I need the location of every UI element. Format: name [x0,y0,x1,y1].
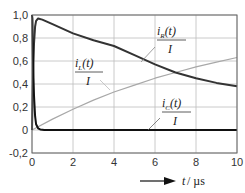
series-line-l [32,58,237,131]
label-iR: iR(t) I [141,24,186,62]
svg-text:iC(t): iC(t) [162,96,181,112]
x-tick-label: 0 [29,156,35,168]
svg-text:iR(t): iR(t) [157,24,176,40]
y-tick-label: 0,8 [13,32,28,44]
svg-text:t: t [182,174,186,188]
y-tick-label: 0,6 [13,55,28,67]
series-line-c [32,15,237,130]
chart: 02468101,00,80,60,40,20-0,2 iR(t) I iL(t… [0,0,245,193]
curves [32,15,237,130]
grid [32,15,237,153]
y-tick-label: 0,2 [13,101,28,113]
svg-text:I: I [85,74,91,88]
svg-text:I: I [172,114,178,128]
svg-text:I: I [167,42,173,56]
arrow-right-icon [164,177,176,185]
x-tick-label: 2 [70,156,76,168]
y-tick-label: 0,4 [13,78,28,90]
x-tick-label: 6 [152,156,158,168]
y-tick-label: -0,2 [9,147,28,159]
y-tick-label: 0 [22,124,28,136]
svg-text:iL(t): iL(t) [75,56,94,72]
x-axis-label: t / µs [140,174,205,188]
svg-text:/ µs: / µs [187,174,205,188]
x-tick-label: 10 [231,156,243,168]
label-iC: iC(t) I [148,96,191,130]
y-tick-label: 1,0 [13,9,28,21]
x-tick-label: 4 [111,156,117,168]
series-line-r [32,19,237,131]
x-tick-label: 8 [193,156,199,168]
